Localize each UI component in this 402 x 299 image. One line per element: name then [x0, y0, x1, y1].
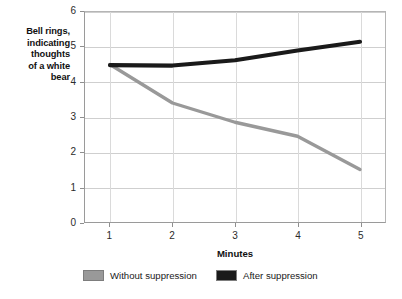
x-tick-mark	[172, 223, 173, 227]
y-axis-title: Bell rings, indicating thoughts of a whi…	[2, 26, 70, 84]
y-tick-mark	[80, 46, 84, 47]
x-tick-label: 1	[97, 231, 121, 241]
y-axis-title-line-4: of a white	[2, 61, 70, 73]
x-tick-mark	[235, 223, 236, 227]
y-tick-mark	[80, 223, 84, 224]
x-tick-mark	[109, 223, 110, 227]
x-tick-label: 4	[286, 231, 310, 241]
legend-item-after-suppression[interactable]: After suppression	[216, 269, 318, 282]
data-series-layer	[85, 12, 385, 222]
y-tick-label: 3	[54, 112, 76, 122]
legend-item-without-suppression[interactable]: Without suppression	[83, 269, 197, 282]
y-tick-label: 2	[54, 147, 76, 157]
x-tick-label: 3	[223, 231, 247, 241]
y-tick-label: 1	[54, 183, 76, 193]
legend-swatch-icon	[83, 270, 104, 281]
y-tick-mark	[80, 152, 84, 153]
chart-legend: Without suppression After suppression	[83, 269, 383, 285]
y-tick-label: 4	[54, 77, 76, 87]
x-tick-mark	[361, 223, 362, 227]
plot-area	[84, 11, 386, 223]
legend-item-label: Without suppression	[110, 270, 197, 281]
y-tick-label: 0	[54, 218, 76, 228]
y-tick-mark	[80, 11, 84, 12]
legend-swatch-icon	[216, 270, 237, 281]
y-tick-label: 5	[54, 41, 76, 51]
x-tick-mark	[298, 223, 299, 227]
x-tick-label: 5	[349, 231, 373, 241]
x-axis-title: Minutes	[84, 248, 386, 259]
y-tick-label: 6	[54, 6, 76, 16]
y-tick-mark	[80, 188, 84, 189]
chart-figure: Bell rings, indicating thoughts of a whi…	[0, 0, 402, 299]
y-tick-mark	[80, 82, 84, 83]
series-line-after-suppression	[110, 42, 360, 66]
y-axis-title-line-1: Bell rings,	[2, 26, 70, 38]
series-line-without-suppression	[110, 65, 360, 170]
legend-item-label: After suppression	[243, 270, 318, 281]
y-tick-mark	[80, 117, 84, 118]
x-tick-label: 2	[160, 231, 184, 241]
